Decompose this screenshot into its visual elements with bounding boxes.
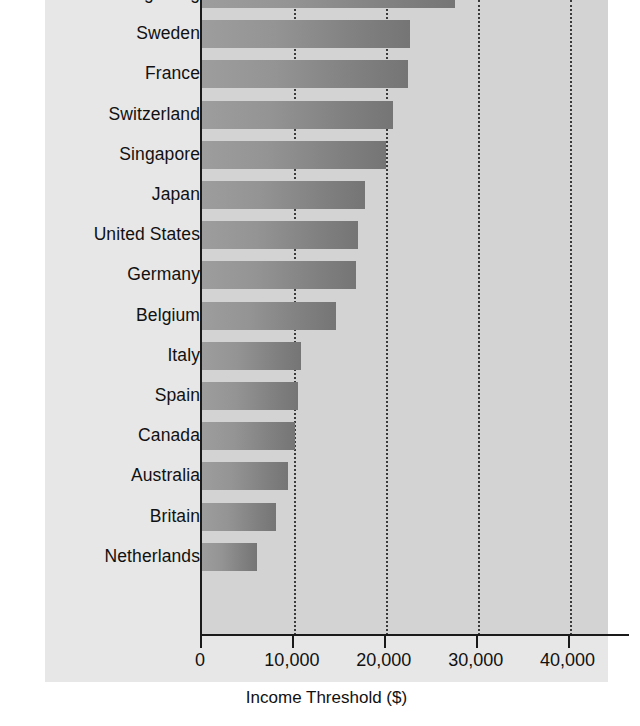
x-tick: [384, 635, 386, 648]
gridline-20000: [386, 0, 388, 635]
bar: [202, 20, 410, 48]
x-axis-line: [200, 634, 629, 636]
category-label: Japan: [45, 186, 200, 204]
category-label: Spain: [45, 387, 200, 405]
category-label: Hong Kong: [45, 0, 200, 3]
category-label: Canada: [45, 427, 200, 445]
x-tick-label: 0: [195, 650, 205, 671]
category-label: Britain: [45, 508, 200, 526]
category-label: Australia: [45, 467, 200, 485]
category-label: Italy: [45, 347, 200, 365]
x-tick-label: 30,000: [448, 650, 503, 671]
plot-inner: [202, 0, 608, 635]
x-axis-label: Income Threshold ($): [45, 688, 608, 708]
bar: [202, 101, 393, 129]
bar: [202, 261, 356, 289]
bar: [202, 543, 257, 571]
x-tick-label: 10,000: [264, 650, 319, 671]
x-tick: [200, 635, 202, 648]
category-label: Sweden: [45, 25, 200, 43]
x-tick-label: 40,000: [540, 650, 595, 671]
chart-figure: Hong KongSwedenFranceSwitzerlandSingapor…: [45, 0, 608, 682]
category-label: Singapore: [45, 146, 200, 164]
bar: [202, 60, 408, 88]
category-label: United States: [45, 226, 200, 244]
category-label: Switzerland: [45, 106, 200, 124]
x-tick-label: 20,000: [356, 650, 411, 671]
bar: [202, 181, 365, 209]
bar: [202, 382, 298, 410]
gridline-30000: [478, 0, 480, 635]
bar: [202, 462, 288, 490]
bar: [202, 141, 386, 169]
bar: [202, 503, 276, 531]
gridline-40000: [570, 0, 572, 635]
category-label: France: [45, 65, 200, 83]
x-tick: [568, 635, 570, 648]
x-tick: [476, 635, 478, 648]
bar: [202, 221, 358, 249]
category-label: Germany: [45, 266, 200, 284]
x-tick: [292, 635, 294, 648]
bar: [202, 422, 295, 450]
plot-area: [200, 0, 608, 635]
bar: [202, 0, 455, 8]
category-axis-labels: Hong KongSwedenFranceSwitzerlandSingapor…: [45, 0, 200, 637]
category-label: Netherlands: [45, 548, 200, 566]
bar: [202, 342, 301, 370]
category-label: Belgium: [45, 307, 200, 325]
bar: [202, 302, 336, 330]
